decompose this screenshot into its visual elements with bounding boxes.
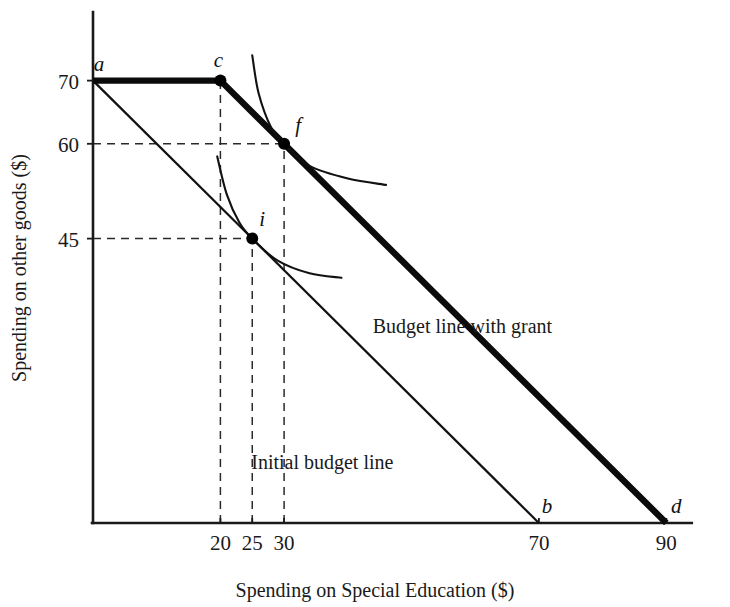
y-tick-label-70: 70	[58, 70, 79, 94]
x-tick-label-30: 30	[274, 531, 295, 555]
initial-budget-line-label: Initial budget line	[251, 451, 393, 474]
x-axis-title: Spending on Special Education ($)	[236, 579, 515, 602]
point-marker-f	[278, 138, 290, 150]
budget-line-with-grant-label: Budget line with grant	[373, 315, 553, 338]
point-marker-i	[246, 233, 258, 245]
x-tick-label-20: 20	[210, 531, 231, 555]
point-label-d: d	[671, 494, 682, 518]
y-tick-label-60: 60	[58, 133, 79, 157]
point-label-c: c	[214, 48, 224, 72]
x-tick-label-70: 70	[528, 531, 549, 555]
axes	[92, 12, 692, 523]
point-marker-c	[214, 75, 226, 87]
x-tick-label-90: 90	[656, 531, 677, 555]
indifference-curve	[217, 156, 341, 277]
point-label-a: a	[94, 52, 105, 76]
point-label-i: i	[259, 207, 265, 231]
point-label-f: f	[295, 113, 304, 137]
point-label-b: b	[542, 494, 553, 518]
tick-labels: 2025307090456070	[58, 70, 677, 555]
y-axis-title: Spending on other goods ($)	[8, 154, 31, 382]
data-point-markers	[214, 75, 290, 245]
indifference-curve	[252, 55, 386, 185]
x-tick-label-25: 25	[242, 531, 263, 555]
chart-annotations: Budget line with grantInitial budget lin…	[251, 315, 552, 474]
budget-line-chart: 2025307090456070 acfibd Budget line with…	[0, 0, 730, 607]
y-tick-label-45: 45	[58, 228, 79, 252]
figure-container: 2025307090456070 acfibd Budget line with…	[0, 0, 730, 607]
